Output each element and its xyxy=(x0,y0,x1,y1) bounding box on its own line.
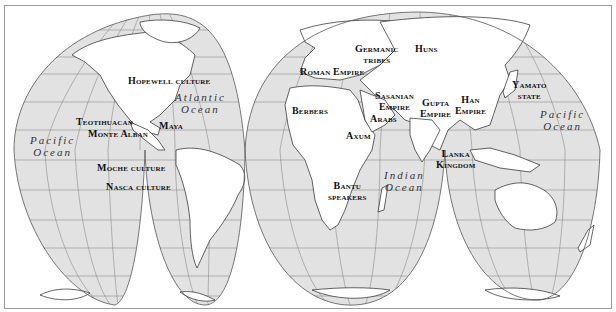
label-roman-empire: Roman Empire xyxy=(300,66,364,77)
label-arabs: Arabs xyxy=(370,113,397,124)
label-yamato-state: Yamatostate xyxy=(512,79,547,101)
label-axum: Axum xyxy=(346,130,371,141)
label-hopewell-culture: Hopewell culture xyxy=(128,75,210,86)
label-monte-alban: Monte Alban xyxy=(88,128,148,139)
ocean-label-indian: IndianOcean xyxy=(384,169,425,193)
label-nasca-culture: Nasca culture xyxy=(106,181,171,192)
ocean-label-pacific-east: PacificOcean xyxy=(540,108,585,132)
ocean-label-pacific-west: PacificOcean xyxy=(30,134,75,158)
label-bantu-speakers: Bantuspeakers xyxy=(328,180,367,202)
label-sasanian-empire: SasanianEmpire xyxy=(375,90,414,112)
ocean-label-atlantic: AtlanticOcean xyxy=(175,91,226,115)
label-gupta-empire: GuptaEmpire xyxy=(420,97,451,119)
label-lanka-kingdom: LankaKingdom xyxy=(436,148,476,170)
label-moche-culture: Moche culture xyxy=(97,162,166,173)
label-berbers: Berbers xyxy=(292,105,328,116)
label-maya: Maya xyxy=(159,120,183,131)
label-germanic-tribes: Germanictribes xyxy=(355,43,399,65)
label-teotihuacan: Teotihuacan xyxy=(76,116,133,127)
label-han-empire: HanEmpire xyxy=(455,94,486,116)
world-map xyxy=(0,0,616,312)
label-huns: Huns xyxy=(415,43,438,54)
